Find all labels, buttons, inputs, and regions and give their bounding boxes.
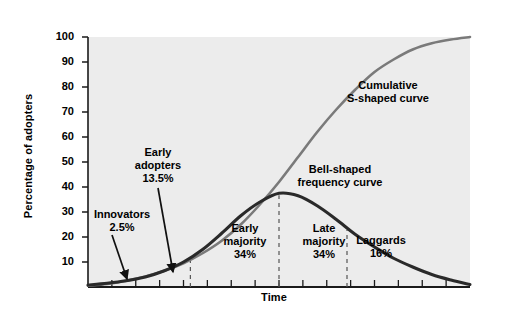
y-axis-tick-label: 60 — [40, 130, 74, 142]
y-axis-tick-label: 70 — [40, 105, 74, 117]
y-axis-tick-label: 100 — [40, 30, 74, 42]
chart-canvas — [0, 0, 508, 314]
y-axis-title: Percentage of adopters — [22, 46, 34, 266]
y-axis-tick-label: 40 — [40, 180, 74, 192]
y-axis-tick-label: 20 — [40, 230, 74, 242]
diffusion-of-innovations-chart: 100908070605040302010 Percentage of adop… — [0, 0, 508, 314]
y-axis-tick-label: 80 — [40, 80, 74, 92]
innovators-label: Innovators 2.5% — [78, 208, 166, 234]
laggards-label: Laggards 16% — [348, 234, 414, 260]
y-axis-tick-label: 90 — [40, 55, 74, 67]
y-axis-tick-label: 30 — [40, 205, 74, 217]
early-adopters-label: Early adopters 13.5% — [117, 146, 199, 185]
bell-curve-label: Bell-shaped frequency curve — [277, 163, 403, 189]
x-axis-title: Time — [214, 291, 334, 303]
y-axis-tick-label: 50 — [40, 155, 74, 167]
y-axis-tick-label: 10 — [40, 255, 74, 267]
cumulative-curve-label: Cumulative S-shaped curve — [329, 79, 447, 105]
early-majority-label: Early majority 34% — [209, 222, 281, 261]
